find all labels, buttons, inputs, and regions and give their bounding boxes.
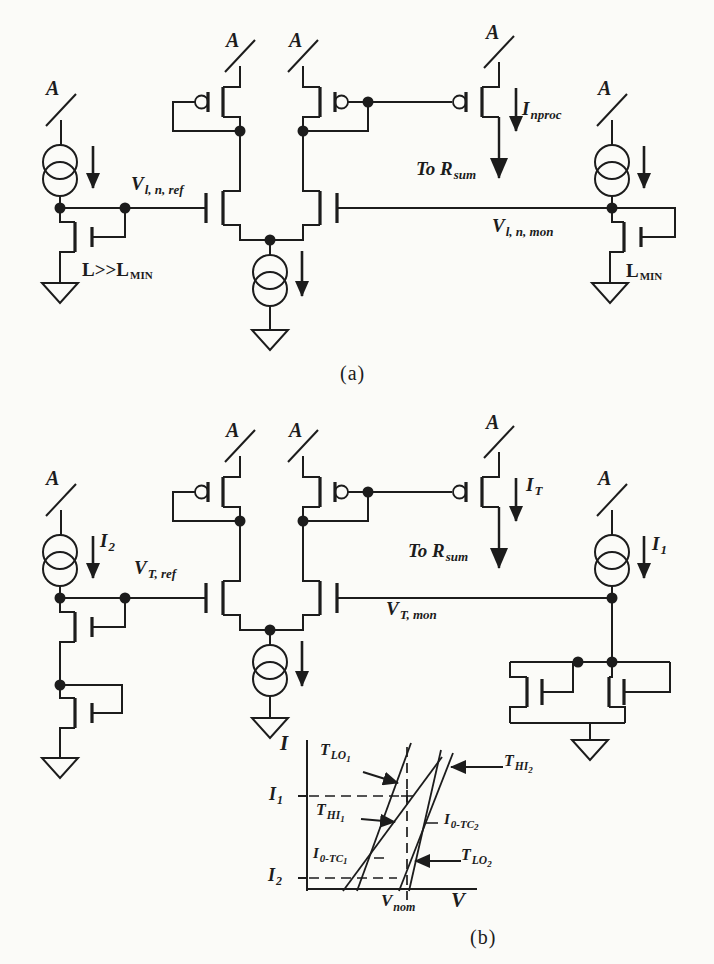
supply-icon: [46, 94, 76, 145]
graph-x-axis-label: V: [451, 890, 465, 911]
graph-i1-tick-label: I1: [269, 785, 283, 806]
y-axis-ticks: [298, 796, 307, 878]
label-inproc: Inproc: [522, 99, 561, 121]
label-vmon-b: VT, mon: [386, 599, 437, 621]
label-vref-a: Vl, n, ref: [131, 174, 184, 196]
curve-thi2: [409, 750, 441, 891]
curve-tlo1: [357, 743, 411, 891]
label-to-rsum-b: To Rsum: [408, 541, 468, 563]
pmos-transistor: [453, 452, 499, 507]
graph-i2-tick-label: I2: [268, 866, 282, 887]
label-it: IT: [526, 475, 542, 497]
ground-icon: [572, 740, 608, 760]
supply-icon: [46, 484, 76, 535]
twin-nmos-block: [510, 598, 670, 740]
zero-tc-pointer-dashes: [374, 823, 438, 858]
supply-a-label: A: [289, 420, 302, 440]
figure-page: A A A A A Vl, n, ref Inproc To Rsum Vl, …: [0, 0, 714, 964]
supply-a-label: A: [486, 412, 499, 432]
caption-b: (b): [470, 927, 496, 947]
caption-a: (a): [340, 363, 365, 383]
supply-a-label: A: [226, 420, 239, 440]
graph-curve-label-thi2: THI2: [504, 753, 533, 775]
label-vref-b: VT, ref: [134, 558, 176, 580]
pmos-transistor: [453, 62, 499, 117]
diff-pair: [206, 521, 337, 630]
current-source-icon: [43, 535, 77, 598]
graph-y-axis-label: I: [280, 733, 288, 754]
ground-icon: [42, 283, 78, 303]
iv-curves: [343, 743, 453, 891]
graph-curve-label-tlo2: TLO2: [461, 847, 492, 869]
label-l-ref: L>>LMIN: [82, 260, 153, 281]
supply-a-label: A: [289, 30, 302, 50]
supply-a-label: A: [46, 468, 59, 488]
supply-a-label: A: [598, 468, 611, 488]
ground-icon: [42, 758, 78, 778]
pmos-transistor: [303, 66, 452, 131]
label-i1: I1: [652, 534, 667, 556]
supply-icon: [597, 484, 627, 535]
current-source-icon: [43, 145, 77, 208]
current-source-icon: [595, 145, 629, 208]
label-to-rsum-a: To Rsum: [416, 159, 476, 181]
nmos-transistor: [60, 598, 125, 685]
circuit-b: [42, 426, 670, 778]
ground-icon: [592, 283, 628, 303]
nmos-transistor: [60, 685, 122, 758]
label-vmon-a: Vl, n, mon: [492, 216, 553, 238]
graph-zero-tc2-label: I0-TC2: [444, 812, 479, 832]
ground-icon: [252, 330, 288, 350]
graph-zero-tc1-label: I0-TC1: [313, 846, 348, 866]
supply-a-label: A: [486, 22, 499, 42]
graph-curve-label-thi1: THI1: [316, 802, 345, 824]
label-l-min: LMIN: [626, 261, 662, 282]
tail-current-source-icon: [253, 630, 287, 718]
pmos-transistor: [303, 456, 452, 521]
supply-icon: [597, 94, 627, 145]
supply-a-label: A: [46, 78, 59, 98]
curve-thi1: [343, 757, 442, 891]
current-source-icon: [595, 535, 629, 598]
pmos-transistor: [173, 456, 240, 521]
diff-pair: [206, 131, 337, 240]
label-i2: I2: [100, 531, 115, 553]
supply-a-label: A: [226, 30, 239, 50]
pmos-transistor: [173, 66, 240, 131]
tail-current-source-icon: [253, 240, 287, 330]
graph-curve-label-tlo1: TLO1: [320, 742, 351, 764]
supply-a-label: A: [598, 78, 611, 98]
graph-vnom-tick-label: Vnom: [381, 892, 415, 913]
